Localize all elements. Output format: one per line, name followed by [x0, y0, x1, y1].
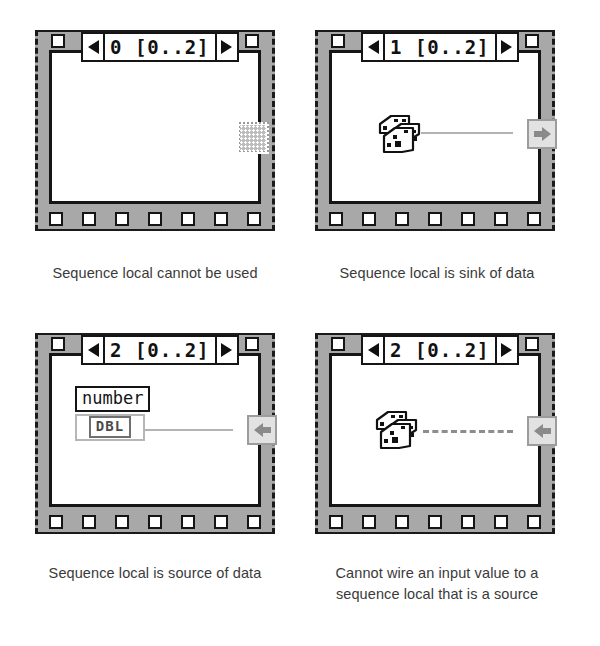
- sprocket-hole: [115, 515, 129, 529]
- sprocket-hole-row-bottom: [329, 211, 541, 226]
- sprocket-hole: [362, 515, 376, 529]
- sprocket-hole: [428, 212, 442, 226]
- wire-solid[interactable]: [421, 132, 513, 134]
- diagram-sheet: 0 [0..2]: [0, 0, 600, 646]
- sprocket-hole: [181, 515, 195, 529]
- sprocket-hole: [527, 515, 541, 529]
- sequence-structure-frame[interactable]: 2 [0..2]: [315, 333, 555, 534]
- sprocket-hole: [214, 212, 228, 226]
- arrow-left-icon: [534, 424, 551, 438]
- panel-frame-2-broken: 2 [0..2]: [315, 333, 555, 534]
- sequence-local-unused[interactable]: [237, 122, 269, 154]
- sprocket-hole: [362, 212, 376, 226]
- caption-line: Sequence local cannot be used: [10, 263, 300, 284]
- prev-frame-button[interactable]: [361, 32, 383, 62]
- sprocket-hole: [148, 212, 162, 226]
- sequence-local-sink[interactable]: [527, 119, 557, 149]
- sequence-structure-frame[interactable]: 1 [0..2]: [315, 30, 555, 231]
- dice-icon-svg: [373, 408, 419, 452]
- sprocket-hole-row-bottom: [49, 514, 261, 529]
- sprocket-hole: [461, 515, 475, 529]
- numeric-indicator[interactable]: number DBL: [75, 386, 150, 441]
- sprocket-hole: [494, 212, 508, 226]
- sprocket-hole: [329, 212, 343, 226]
- frame-index-label: 2 [0..2]: [383, 335, 497, 365]
- frame-index-label: 0 [0..2]: [103, 32, 217, 62]
- caption-frame-2-source: Sequence local is source of data: [10, 563, 300, 584]
- sequence-local-source[interactable]: [527, 416, 557, 446]
- sprocket-hole-top-right: [245, 34, 259, 48]
- checkered-square-icon: [240, 125, 266, 151]
- sequence-local-source[interactable]: [247, 415, 277, 445]
- prev-frame-button[interactable]: [81, 32, 103, 62]
- left-triangle-icon: [368, 343, 379, 357]
- sprocket-hole: [82, 515, 96, 529]
- next-frame-button[interactable]: [497, 32, 519, 62]
- right-triangle-icon: [221, 343, 232, 357]
- sprocket-hole: [115, 212, 129, 226]
- sprocket-hole-top-left: [331, 337, 345, 351]
- right-triangle-icon: [221, 40, 232, 54]
- next-frame-button[interactable]: [497, 335, 519, 365]
- sprocket-hole: [214, 515, 228, 529]
- caption-frame-1: Sequence local is sink of data: [292, 263, 582, 284]
- frame-canvas[interactable]: [329, 50, 541, 204]
- left-triangle-icon: [368, 40, 379, 54]
- sprocket-hole: [49, 212, 63, 226]
- frame-canvas[interactable]: [329, 353, 541, 507]
- numeric-terminal[interactable]: DBL: [75, 414, 145, 441]
- sprocket-hole: [148, 515, 162, 529]
- sprocket-hole: [82, 212, 96, 226]
- frame-label-bar[interactable]: 2 [0..2]: [361, 335, 519, 365]
- numeric-indicator-label: number: [75, 386, 150, 412]
- sprocket-hole: [428, 515, 442, 529]
- sprocket-hole: [527, 212, 541, 226]
- sequence-structure-frame[interactable]: 2 [0..2] number DBL: [35, 333, 275, 534]
- prev-frame-button[interactable]: [81, 335, 103, 365]
- sprocket-hole: [395, 515, 409, 529]
- prev-frame-button[interactable]: [361, 335, 383, 365]
- sequence-structure-frame[interactable]: 0 [0..2]: [35, 30, 275, 231]
- wire-solid[interactable]: [145, 429, 233, 431]
- sprocket-hole: [494, 515, 508, 529]
- frame-label-bar[interactable]: 1 [0..2]: [361, 32, 519, 62]
- dice-icon[interactable]: [376, 112, 422, 156]
- datatype-label: DBL: [89, 416, 131, 438]
- caption-frame-2-broken: Cannot wire an input value to a sequence…: [292, 563, 582, 605]
- dice-icon[interactable]: [373, 408, 419, 452]
- sprocket-hole-row-bottom: [329, 514, 541, 529]
- sprocket-hole: [461, 212, 475, 226]
- left-triangle-icon: [88, 40, 99, 54]
- dice-icon-svg: [376, 112, 422, 156]
- sprocket-hole-top-right: [525, 34, 539, 48]
- sprocket-hole-top-left: [331, 34, 345, 48]
- right-triangle-icon: [501, 343, 512, 357]
- panel-frame-2-source: 2 [0..2] number DBL: [35, 333, 275, 534]
- panel-frame-1: 1 [0..2]: [315, 30, 555, 231]
- left-triangle-icon: [88, 343, 99, 357]
- frame-label-bar[interactable]: 2 [0..2]: [81, 335, 239, 365]
- sprocket-hole: [49, 515, 63, 529]
- next-frame-button[interactable]: [217, 32, 239, 62]
- caption-line: Sequence local is source of data: [10, 563, 300, 584]
- arrow-right-icon: [534, 127, 551, 141]
- right-triangle-icon: [501, 40, 512, 54]
- frame-label-bar[interactable]: 0 [0..2]: [81, 32, 239, 62]
- frame-canvas[interactable]: number DBL: [49, 353, 261, 507]
- caption-line: Sequence local is sink of data: [292, 263, 582, 284]
- frame-canvas[interactable]: [49, 50, 261, 204]
- wire-broken[interactable]: [423, 430, 513, 433]
- caption-frame-0: Sequence local cannot be used: [10, 263, 300, 284]
- caption-line: sequence local that is a source: [292, 584, 582, 605]
- sprocket-hole: [247, 515, 261, 529]
- sprocket-hole-top-right: [525, 337, 539, 351]
- sprocket-hole-top-left: [51, 337, 65, 351]
- frame-index-label: 1 [0..2]: [383, 32, 497, 62]
- caption-line: Cannot wire an input value to a: [292, 563, 582, 584]
- sprocket-hole-top-right: [245, 337, 259, 351]
- sprocket-hole: [181, 212, 195, 226]
- sprocket-hole-top-left: [51, 34, 65, 48]
- next-frame-button[interactable]: [217, 335, 239, 365]
- arrow-left-icon: [254, 423, 271, 437]
- panel-frame-0: 0 [0..2]: [35, 30, 275, 231]
